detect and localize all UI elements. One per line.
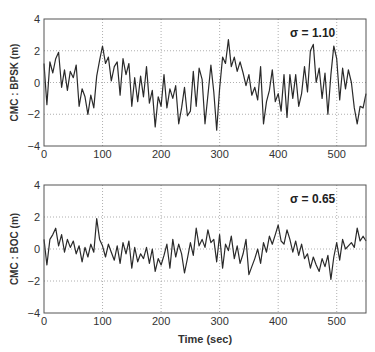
x-axis-label: Time (sec) (178, 333, 233, 345)
x-tick-label: 500 (328, 315, 346, 327)
x-tick-label: 500 (328, 148, 346, 160)
sigma-annotation: σ = 1.10 (290, 26, 336, 40)
x-tick-label: 100 (93, 148, 111, 160)
x-tick-label: 0 (41, 148, 47, 160)
x-tick-label: 300 (210, 148, 228, 160)
x-tick-label: 200 (152, 315, 170, 327)
y-tick-label: 2 (34, 45, 40, 57)
figure: 0100200300400500−4−2024 CMC : BPSK (m) σ… (0, 0, 375, 352)
x-tick-label: 100 (93, 315, 111, 327)
y-tick-label: −4 (27, 140, 40, 152)
x-tick-label: 300 (210, 315, 228, 327)
y-tick-label: 4 (34, 13, 40, 25)
y-tick-label: 0 (34, 243, 40, 255)
y-tick-label: −4 (27, 307, 40, 319)
sigma-annotation: σ = 0.65 (290, 192, 336, 206)
y-tick-label: 0 (34, 77, 40, 89)
y-tick-label: 2 (34, 211, 40, 223)
panel-bpsk: 0100200300400500−4−2024 CMC : BPSK (m) σ… (9, 13, 366, 160)
panel-boc: 0100200300400500−4−2024 CMC : BOC (m) σ … (9, 179, 366, 327)
y-axis-label: CMC : BPSK (m) (9, 44, 20, 122)
y-axis-label: CMC : BOC (m) (9, 213, 20, 285)
y-tick-label: −2 (27, 108, 40, 120)
y-tick-label: −2 (27, 275, 40, 287)
x-tick-label: 400 (269, 148, 287, 160)
x-tick-label: 200 (152, 148, 170, 160)
x-tick-label: 0 (41, 315, 47, 327)
y-tick-label: 4 (34, 179, 40, 191)
x-tick-label: 400 (269, 315, 287, 327)
cmc-bpsk-trace (44, 40, 366, 131)
